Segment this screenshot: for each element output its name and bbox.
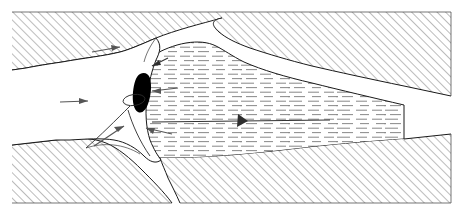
figure-root: Geologic cross-section: slump block and …	[0, 0, 463, 215]
cross-section-diagram: Geologic cross-section: slump block and …	[0, 0, 463, 215]
